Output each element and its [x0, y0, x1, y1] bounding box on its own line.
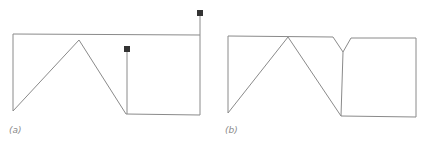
- diagram-canvas: (a) (b): [0, 0, 422, 143]
- panel-b-inner-stem: [341, 52, 343, 116]
- panel-b-label: (b): [225, 125, 238, 135]
- panel-a-label: (a): [9, 125, 22, 135]
- panel-b-closed-path: [228, 36, 416, 117]
- panel-a: (a): [9, 10, 203, 135]
- panel-a-terminal-node-right: [197, 10, 203, 16]
- panel-a-terminal-node-inner: [124, 46, 130, 52]
- panel-b: (b): [225, 36, 416, 135]
- panel-a-zigzag-path: [13, 13, 200, 115]
- panel-a-top-line: [13, 34, 200, 35]
